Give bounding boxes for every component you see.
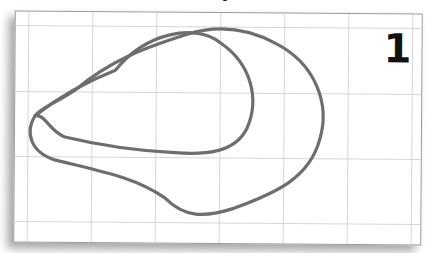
grid-and-curves <box>14 12 422 245</box>
top-edge-mark <box>222 0 228 1</box>
outer-loop-curve <box>30 28 324 216</box>
card-number-label: 1 <box>384 28 412 68</box>
grid-lines <box>14 12 422 245</box>
diagram-card: 1 <box>13 11 423 246</box>
